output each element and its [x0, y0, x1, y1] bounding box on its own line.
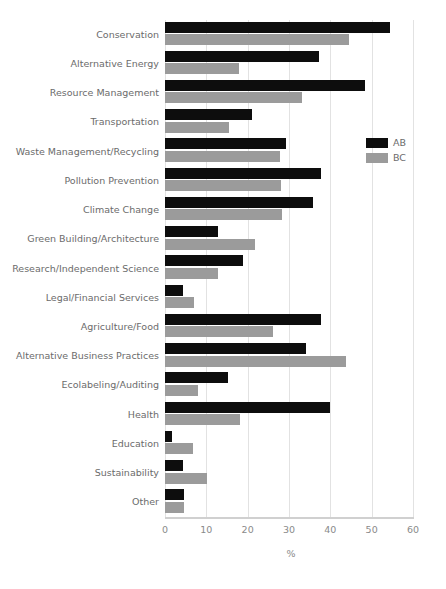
- bar-ab: [165, 109, 252, 120]
- bar-group: [165, 312, 413, 341]
- bar-ab: [165, 314, 321, 325]
- bar-ab: [165, 372, 228, 383]
- bar-ab: [165, 226, 218, 237]
- legend: AB BC: [366, 136, 426, 166]
- bar-group: [165, 108, 413, 137]
- bar-bc: [165, 180, 281, 191]
- bar-bc: [165, 122, 229, 133]
- category-axis-labels: ConservationAlternative EnergyResource M…: [0, 20, 159, 517]
- category-label: Education: [0, 438, 159, 449]
- x-tick-30: 30: [274, 524, 304, 535]
- bar-ab: [165, 80, 365, 91]
- bar-ab: [165, 489, 184, 500]
- bar-bc: [165, 414, 240, 425]
- gridline-60: [413, 20, 414, 517]
- x-tick-20: 20: [233, 524, 263, 535]
- category-label: Ecolabeling/Auditing: [0, 379, 159, 390]
- bar-bc: [165, 473, 207, 484]
- legend-swatch-ab-icon: [366, 138, 388, 148]
- bar-bc: [165, 356, 346, 367]
- x-axis-title-text: %: [286, 548, 295, 559]
- bar-ab: [165, 460, 183, 471]
- bar-group: [165, 342, 413, 371]
- x-axis-line: [165, 517, 414, 519]
- bar-bc: [165, 63, 239, 74]
- x-axis-title: %: [0, 548, 446, 559]
- category-label: Pollution Prevention: [0, 175, 159, 186]
- category-label: Other: [0, 496, 159, 507]
- bar-bc: [165, 297, 194, 308]
- bar-ab: [165, 22, 390, 33]
- bar-bc: [165, 443, 193, 454]
- category-label: Resource Management: [0, 87, 159, 98]
- bar-bc: [165, 502, 184, 513]
- bar-group: [165, 254, 413, 283]
- bar-group: [165, 20, 413, 49]
- category-label: Research/Independent Science: [0, 263, 159, 274]
- bar-group: [165, 166, 413, 195]
- category-label: Agriculture/Food: [0, 321, 159, 332]
- category-label: Legal/Financial Services: [0, 292, 159, 303]
- bar-ab: [165, 343, 306, 354]
- plot-area: [165, 20, 413, 517]
- bar-ab: [165, 285, 183, 296]
- x-tick-40: 40: [315, 524, 345, 535]
- legend-item-ab: AB: [366, 136, 426, 149]
- bar-ab: [165, 402, 330, 413]
- bar-bc: [165, 385, 198, 396]
- bar-group: [165, 488, 413, 517]
- bar-bc: [165, 209, 282, 220]
- category-label: Waste Management/Recycling: [0, 146, 159, 157]
- bar-ab: [165, 431, 172, 442]
- x-tick-10: 10: [191, 524, 221, 535]
- category-label: Conservation: [0, 29, 159, 40]
- category-label: Climate Change: [0, 204, 159, 215]
- category-label: Green Building/Architecture: [0, 233, 159, 244]
- legend-swatch-bc-icon: [366, 153, 388, 163]
- bar-bc: [165, 239, 255, 250]
- category-label: Transportation: [0, 116, 159, 127]
- bar-group: [165, 371, 413, 400]
- x-tick-60: 60: [398, 524, 428, 535]
- bar-ab: [165, 138, 286, 149]
- legend-label-ab: AB: [393, 137, 406, 148]
- legend-item-bc: BC: [366, 151, 426, 164]
- bar-group: [165, 283, 413, 312]
- bar-group: [165, 195, 413, 224]
- category-label: Alternative Business Practices: [0, 350, 159, 361]
- bar-ab: [165, 197, 313, 208]
- bar-bc: [165, 151, 280, 162]
- bar-bc: [165, 326, 273, 337]
- bar-ab: [165, 51, 319, 62]
- bar-group: [165, 429, 413, 458]
- category-label: Alternative Energy: [0, 58, 159, 69]
- legend-label-bc: BC: [393, 152, 406, 163]
- x-tick-0: 0: [150, 524, 180, 535]
- bar-group: [165, 459, 413, 488]
- bar-group: [165, 49, 413, 78]
- bar-bc: [165, 34, 349, 45]
- bar-ab: [165, 255, 243, 266]
- bar-ab: [165, 168, 321, 179]
- bar-bc: [165, 92, 302, 103]
- bar-chart: ConservationAlternative EnergyResource M…: [0, 0, 446, 589]
- bar-bc: [165, 268, 218, 279]
- category-label: Health: [0, 409, 159, 420]
- category-label: Sustainability: [0, 467, 159, 478]
- bar-group: [165, 400, 413, 429]
- bar-group: [165, 225, 413, 254]
- x-tick-50: 50: [357, 524, 387, 535]
- bar-group: [165, 78, 413, 107]
